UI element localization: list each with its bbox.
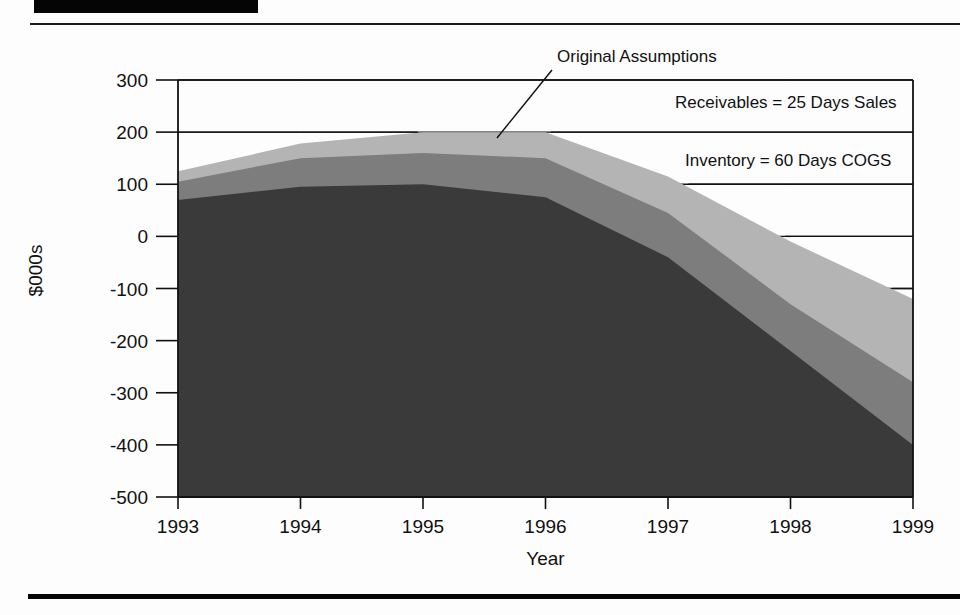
- x-tick-label: 1993: [157, 516, 199, 537]
- page-root: 3002001000-100-200-300-400-5001993199419…: [0, 0, 960, 615]
- x-tick-label: 1999: [892, 516, 934, 537]
- y-ticks: 3002001000-100-200-300-400-500: [110, 70, 178, 508]
- y-tick-label: -500: [110, 487, 148, 508]
- footer-black-rule: [28, 594, 960, 599]
- y-tick-label: 100: [116, 174, 148, 195]
- y-tick-label: 0: [137, 226, 148, 247]
- stacked-areas: [178, 132, 913, 497]
- y-tick-label: 200: [116, 122, 148, 143]
- annotation-label-receivables-note: Receivables = 25 Days Sales: [675, 93, 897, 112]
- y-tick-label: -300: [110, 383, 148, 404]
- x-tick-label: 1995: [402, 516, 444, 537]
- y-tick-label: 300: [116, 70, 148, 91]
- y-tick-label: -200: [110, 331, 148, 352]
- area-chart-svg: 3002001000-100-200-300-400-5001993199419…: [0, 0, 960, 615]
- x-tick-label: 1996: [524, 516, 566, 537]
- x-ticks: 1993199419951996199719981999: [157, 497, 934, 537]
- x-tick-label: 1997: [647, 516, 689, 537]
- chart-figure: 3002001000-100-200-300-400-5001993199419…: [0, 0, 960, 615]
- y-tick-label: -400: [110, 435, 148, 456]
- x-axis-title: Year: [526, 548, 565, 569]
- y-axis-title: $000s: [25, 245, 46, 297]
- annotation-label-inventory-note: Inventory = 60 Days COGS: [685, 151, 891, 170]
- annotation-label-original-assumptions: Original Assumptions: [557, 47, 717, 66]
- x-tick-label: 1994: [279, 516, 322, 537]
- y-tick-label: -100: [110, 279, 148, 300]
- x-tick-label: 1998: [769, 516, 811, 537]
